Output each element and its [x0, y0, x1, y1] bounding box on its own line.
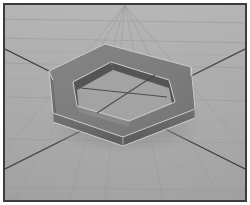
3d-viewport[interactable]	[5, 5, 245, 200]
screenshot-root	[0, 0, 250, 205]
render-frame	[3, 3, 247, 202]
3d-scene-svg	[5, 5, 245, 200]
